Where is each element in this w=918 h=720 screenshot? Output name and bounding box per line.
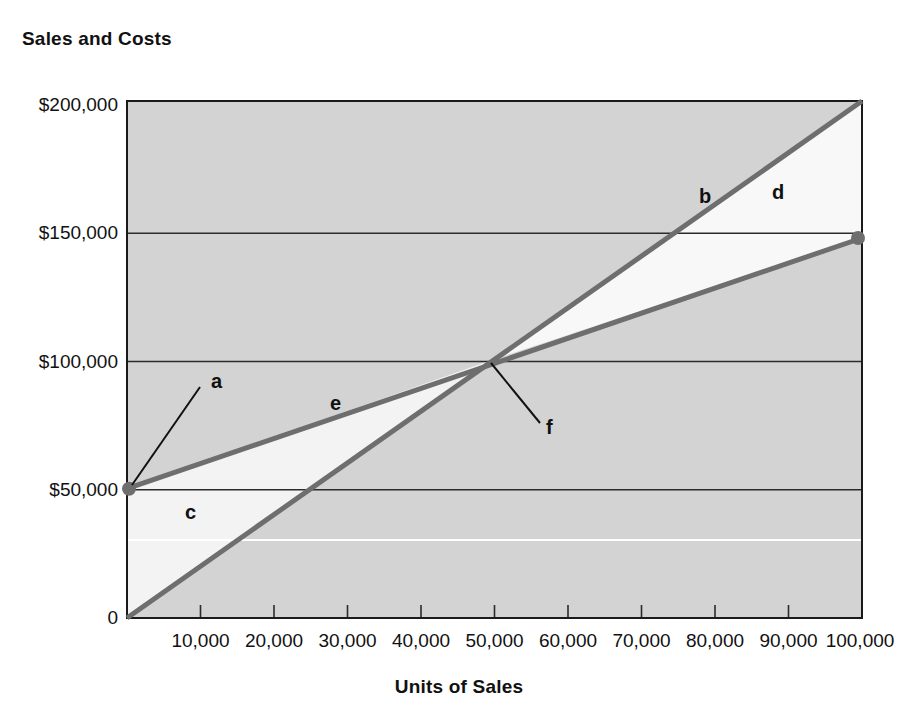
annotation-label-d: d — [772, 181, 784, 203]
breakeven-chart: Sales and Costs Units of Sales 0 $50,000… — [0, 0, 918, 720]
annotation-label-e: e — [330, 392, 341, 414]
annotation-label-a: a — [211, 370, 223, 392]
annotation-label-b: b — [699, 185, 711, 207]
annotation-label-f: f — [546, 416, 553, 438]
cost-endpoint-marker[interactable] — [851, 231, 865, 245]
annotation-label-c: c — [185, 501, 196, 523]
plot-svg: a b c d e f — [0, 0, 918, 720]
